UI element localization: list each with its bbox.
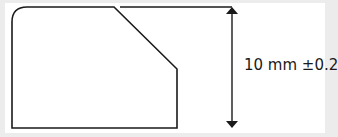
dimension-label: 10 mm ±0.2 (244, 56, 338, 74)
arrow-up-icon (226, 7, 238, 14)
part-outline (12, 7, 177, 128)
arrow-down-icon (226, 121, 238, 128)
